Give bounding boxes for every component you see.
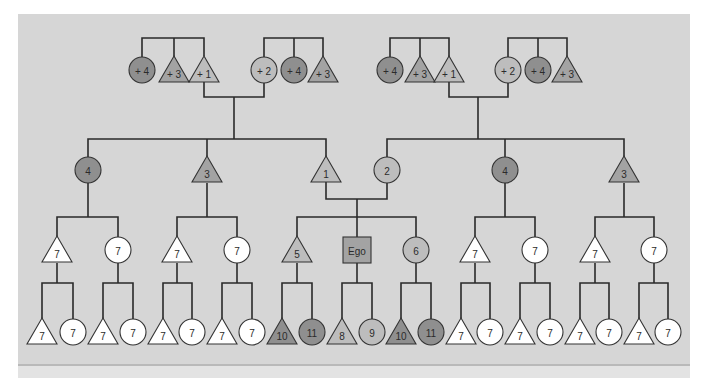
- sibling-bracket: [163, 283, 192, 319]
- node-label: + 1: [442, 69, 457, 80]
- female-node: + 4: [377, 57, 403, 83]
- female-node: 7: [641, 237, 667, 263]
- node-label: 7: [577, 331, 583, 342]
- female-node: 11: [299, 319, 325, 345]
- node-label: 7: [592, 249, 598, 260]
- female-node: + 4: [129, 57, 155, 83]
- marriage-line: [204, 81, 264, 97]
- node-label: 9: [369, 328, 375, 339]
- node-label: + 4: [135, 66, 150, 77]
- node-label: + 4: [287, 66, 302, 77]
- male-node: 8: [327, 318, 357, 344]
- sibling-bracket: [342, 283, 372, 319]
- female-node: + 2: [251, 57, 277, 83]
- female-node: 7: [60, 319, 86, 345]
- male-node: 1: [311, 156, 341, 182]
- male-node: 5: [282, 236, 312, 262]
- node-label: 7: [130, 328, 136, 339]
- female-node: 7: [224, 237, 250, 263]
- node-label: 7: [39, 331, 45, 342]
- node-label: 7: [636, 331, 642, 342]
- node-label: 7: [532, 246, 538, 257]
- node-label: + 2: [501, 66, 516, 77]
- node-label: 4: [85, 166, 91, 177]
- male-node: + 1: [189, 56, 219, 82]
- female-node: 2: [374, 157, 400, 183]
- male-node: 7: [624, 318, 654, 344]
- kinship-diagram: + 4+ 3+ 1+ 2+ 4+ 3+ 4+ 3+ 1+ 2+ 4+ 34312…: [0, 0, 710, 378]
- node-label: 7: [651, 246, 657, 257]
- female-node: 7: [596, 319, 622, 345]
- sibling-bracket: [580, 283, 609, 319]
- sibling-bracket: [103, 283, 133, 319]
- node-label: 7: [189, 328, 195, 339]
- node-label: 7: [472, 249, 478, 260]
- node-label: 7: [606, 328, 612, 339]
- marriage-line: [326, 181, 387, 199]
- sibling-bracket: [401, 283, 431, 319]
- male-node: + 3: [159, 56, 189, 82]
- male-node: 3: [192, 156, 222, 182]
- male-node: 7: [460, 236, 490, 262]
- sibling-bracket: [222, 283, 252, 319]
- node-label: 10: [395, 331, 407, 342]
- male-node: 7: [580, 236, 610, 262]
- male-node: 7: [505, 318, 535, 344]
- node-label: 7: [547, 328, 553, 339]
- node-label: 7: [115, 246, 121, 257]
- male-node: 7: [207, 318, 237, 344]
- sibling-bracket: [639, 283, 668, 319]
- node-label: 8: [339, 331, 345, 342]
- sibling-bracket: [595, 217, 654, 237]
- female-node: + 4: [525, 57, 551, 83]
- marriage-line: [449, 81, 508, 97]
- male-node: 7: [565, 318, 595, 344]
- female-node: 7: [239, 319, 265, 345]
- node-label: 10: [276, 331, 288, 342]
- female-node: 4: [492, 157, 518, 183]
- node-label: 3: [204, 169, 210, 180]
- node-label: 7: [517, 331, 523, 342]
- male-node: 7: [27, 318, 57, 344]
- male-node: + 3: [552, 56, 582, 82]
- node-label: 4: [502, 166, 508, 177]
- node-label: + 2: [257, 66, 272, 77]
- sibling-bracket: [177, 217, 237, 237]
- node-label: 11: [426, 328, 437, 339]
- node-label: 7: [249, 328, 255, 339]
- node-label: 1: [323, 169, 329, 180]
- node-label: 7: [219, 331, 225, 342]
- male-node: 7: [162, 236, 192, 262]
- male-node: + 3: [405, 56, 435, 82]
- female-node: 7: [477, 319, 503, 345]
- female-node: 9: [359, 319, 385, 345]
- male-node: + 3: [308, 56, 338, 82]
- node-label: + 3: [413, 69, 428, 80]
- female-node: + 2: [495, 57, 521, 83]
- female-node: 4: [75, 157, 101, 183]
- node-label: 7: [160, 331, 166, 342]
- node-label: Ego: [348, 246, 366, 257]
- node-label: + 3: [167, 69, 182, 80]
- male-node: 7: [446, 318, 476, 344]
- node-label: 7: [174, 249, 180, 260]
- female-node: 7: [120, 319, 146, 345]
- node-label: + 4: [531, 66, 546, 77]
- female-node: 7: [655, 319, 681, 345]
- sibling-bracket: [282, 283, 312, 319]
- node-label: 7: [487, 328, 493, 339]
- ego-node: Ego: [343, 237, 371, 263]
- female-node: 7: [105, 237, 131, 263]
- sibling-bracket: [475, 217, 535, 237]
- node-label: + 3: [316, 69, 331, 80]
- sibling-bracket: [461, 283, 490, 319]
- female-node: 7: [179, 319, 205, 345]
- male-node: 7: [42, 236, 72, 262]
- node-label: 7: [458, 331, 464, 342]
- node-label: + 1: [197, 69, 212, 80]
- female-node: 7: [537, 319, 563, 345]
- node-label: 2: [384, 166, 390, 177]
- sibling-bracket: [142, 38, 204, 57]
- node-label: + 3: [560, 69, 575, 80]
- node-label: 7: [234, 246, 240, 257]
